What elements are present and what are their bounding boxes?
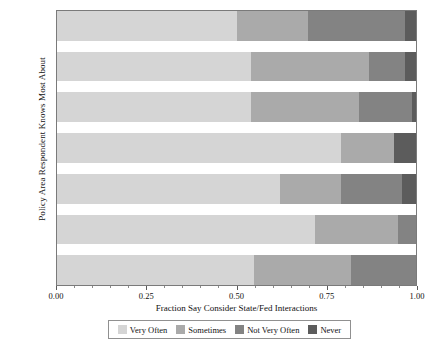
bar-row — [57, 11, 416, 41]
x-tick-minor — [182, 286, 183, 288]
stacked-bars — [57, 11, 416, 285]
x-tick-label: 0.25 — [139, 291, 154, 301]
bar-row — [57, 133, 416, 163]
bar-segment — [57, 215, 315, 245]
x-tick-minor — [164, 286, 165, 288]
bar-segment — [57, 133, 341, 163]
x-tick-mark — [327, 286, 328, 290]
x-tick-minor — [399, 286, 400, 288]
legend-swatch-icon — [176, 325, 185, 334]
x-tick-minor — [128, 286, 129, 288]
legend-label: Sometimes — [188, 325, 226, 335]
bar-segment — [351, 255, 416, 285]
x-tick-mark — [146, 286, 147, 290]
x-tick-mark — [56, 286, 57, 290]
bar-segment — [398, 215, 416, 245]
bar-segment — [412, 92, 416, 122]
x-tick-minor — [363, 286, 364, 288]
bar-segment — [341, 133, 395, 163]
bar-segment — [237, 11, 309, 41]
legend-swatch-icon — [235, 325, 244, 334]
x-tick-mark — [417, 286, 418, 290]
bar-row — [57, 174, 416, 204]
x-tick-label: 0.50 — [229, 291, 244, 301]
x-axis-title: Fraction Say Consider State/Fed Interact… — [56, 303, 417, 313]
x-tick-minor — [309, 286, 310, 288]
y-axis-title: Policy Area Respondent Knows Most About — [37, 4, 47, 274]
bar-row — [57, 255, 416, 285]
bar-segment — [57, 92, 251, 122]
x-tick-minor — [200, 286, 201, 288]
bar-segment — [405, 11, 416, 41]
legend-label: Very Often — [130, 325, 168, 335]
x-tick-minor — [110, 286, 111, 288]
bar-row — [57, 52, 416, 82]
x-tick-minor — [255, 286, 256, 288]
bar-segment — [359, 92, 413, 122]
x-tick-minor — [381, 286, 382, 288]
legend-item[interactable]: Very Often — [118, 325, 168, 335]
x-tick-mark — [237, 286, 238, 290]
x-tick-minor — [291, 286, 292, 288]
bar-segment — [251, 52, 369, 82]
legend-label: Never — [320, 325, 341, 335]
legend-item[interactable]: Sometimes — [176, 325, 226, 335]
bar-segment — [315, 215, 398, 245]
chart-legend: Very OftenSometimesNot Very OftenNever — [108, 320, 351, 339]
x-tick-label: 1.00 — [410, 291, 425, 301]
bar-segment — [280, 174, 341, 204]
bar-segment — [254, 255, 351, 285]
x-tick-minor — [74, 286, 75, 288]
x-tick-minor — [92, 286, 93, 288]
bar-row — [57, 215, 416, 245]
bar-segment — [405, 52, 416, 82]
bar-segment — [369, 52, 405, 82]
x-tick-label: 0.75 — [319, 291, 334, 301]
x-tick-minor — [218, 286, 219, 288]
bar-segment — [57, 52, 251, 82]
x-tick-minor — [345, 286, 346, 288]
legend-swatch-icon — [308, 325, 317, 334]
x-tick-minor — [273, 286, 274, 288]
bar-segment — [308, 11, 405, 41]
bar-segment — [57, 255, 254, 285]
legend-label: Not Very Often — [247, 325, 299, 335]
bar-segment — [341, 174, 402, 204]
legend-item[interactable]: Not Very Often — [235, 325, 299, 335]
bar-segment — [251, 92, 359, 122]
bar-segment — [57, 11, 237, 41]
legend-swatch-icon — [118, 325, 127, 334]
x-tick-label: 0.00 — [49, 291, 64, 301]
plot-area — [56, 10, 417, 286]
bar-segment — [394, 133, 416, 163]
bar-segment — [57, 174, 280, 204]
chart-figure: Policy Area Respondent Knows Most About … — [0, 0, 432, 345]
legend-item[interactable]: Never — [308, 325, 341, 335]
bar-segment — [402, 174, 416, 204]
bar-row — [57, 92, 416, 122]
